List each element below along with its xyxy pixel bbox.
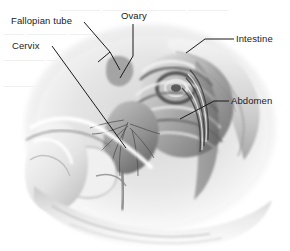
- label-intestine: Intestine: [236, 33, 273, 44]
- label-cervix: Cervix: [12, 40, 40, 51]
- label-abdomen: Abdomen: [231, 95, 272, 106]
- label-ovary: Ovary: [121, 10, 147, 21]
- label-fallopian-tube: Fallopian tube: [11, 15, 72, 26]
- anatomical-figure: ———— ——— ————— ———— —— ———— ——— ————— ——…: [0, 0, 290, 251]
